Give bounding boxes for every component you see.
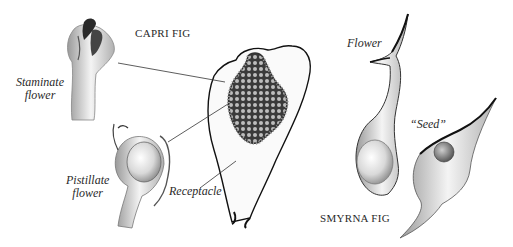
pistillate-flower-label: Pistillate flower	[66, 174, 109, 200]
pistillate-flower-label-line2: flower	[66, 187, 109, 200]
staminate-flower-label: Staminate flower	[16, 76, 64, 102]
staminate-flower-drawing	[68, 18, 115, 120]
receptacle-label: Receptacle	[169, 185, 222, 198]
fig-cross-section-drawing	[208, 46, 310, 228]
capri-fig-heading: CAPRI FIG	[135, 27, 191, 40]
pistillate-flower-drawing	[113, 124, 169, 228]
fig-illustration: CAPRI FIG Staminate flower Pistillate fl…	[0, 0, 513, 247]
smyrna-fig-heading: SMYRNA FIG	[320, 212, 390, 225]
flower-label: Flower	[347, 37, 382, 50]
seed-label: “Seed”	[410, 118, 446, 131]
staminate-flower-label-line2: flower	[16, 89, 64, 102]
